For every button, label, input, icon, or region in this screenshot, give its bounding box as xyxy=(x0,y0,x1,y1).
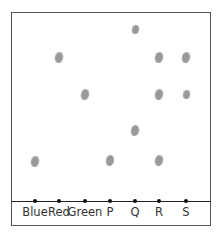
origin-dot-r xyxy=(157,199,161,203)
origin-dot-s xyxy=(184,199,188,203)
lane-label-blue: Blue xyxy=(22,205,47,219)
origin-dot-green xyxy=(83,199,87,203)
lane-label-p: P xyxy=(107,205,114,219)
chromatography-paper xyxy=(11,12,211,226)
origin-dot-p xyxy=(108,199,112,203)
origin-dot-blue xyxy=(33,199,37,203)
origin-dot-q xyxy=(133,199,137,203)
lane-label-q: Q xyxy=(130,205,139,219)
lane-label-r: R xyxy=(155,205,163,219)
lane-label-green: Green xyxy=(68,205,103,219)
origin-dot-red xyxy=(57,199,61,203)
lane-label-s: S xyxy=(182,205,189,219)
